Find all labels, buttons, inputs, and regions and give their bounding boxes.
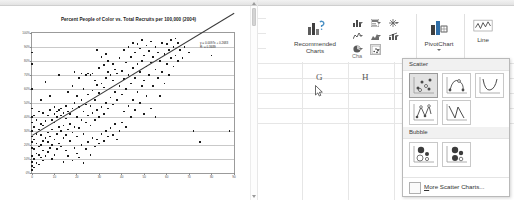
scatter-point — [74, 71, 76, 73]
scatter-point — [148, 50, 150, 52]
waterfall-chart-button[interactable] — [388, 18, 399, 29]
chevron-down-icon[interactable] — [377, 35, 381, 37]
x-axis-tickmark — [189, 173, 190, 175]
scatter-point — [67, 129, 69, 131]
scatter-point — [177, 60, 179, 62]
mouse-pointer-icon — [315, 85, 323, 97]
scroll-down-arrow-icon[interactable] — [252, 195, 256, 198]
pivotchart-button[interactable]: PivotChart — [418, 18, 460, 47]
scatter-point — [137, 63, 139, 65]
scatter-point — [31, 108, 33, 110]
scatter-point — [54, 106, 56, 108]
gridline — [32, 61, 234, 62]
line-chart-button[interactable] — [352, 31, 363, 42]
chevron-down-icon[interactable] — [359, 22, 363, 24]
chevron-down-icon[interactable] — [376, 49, 380, 51]
scatter-point — [125, 62, 127, 64]
scatter-chart-gallery-dropdown[interactable]: Scatter — [402, 58, 510, 197]
scatter-point — [96, 84, 98, 86]
scatter-point — [60, 146, 62, 148]
chevron-down-icon[interactable] — [359, 35, 363, 37]
scatter-point — [94, 99, 96, 101]
column-header-g[interactable]: G — [316, 72, 323, 82]
scatter-point — [101, 133, 103, 135]
scatter-point — [81, 144, 83, 146]
x-axis-tickmark — [211, 173, 212, 175]
scatter-point — [119, 57, 121, 59]
x-axis-tickmark — [76, 173, 77, 175]
more-scatter-charts-item[interactable]: More Scatter Charts... — [403, 177, 509, 196]
scatter-point — [65, 150, 67, 152]
scatter-smooth-lines-markers-thumb[interactable] — [442, 73, 471, 98]
scatter-point — [78, 157, 80, 159]
scatter-point — [78, 77, 80, 79]
scatter-point — [105, 102, 107, 104]
x-axis-tick-label: 60 — [165, 175, 168, 179]
chevron-down-icon[interactable] — [395, 22, 399, 24]
chevron-down-icon[interactable] — [437, 49, 441, 51]
r-squared-text: R² = 0.3689 — [200, 45, 228, 49]
scatter-point — [33, 167, 35, 169]
scroll-up-arrow-icon[interactable] — [252, 2, 256, 5]
more-scatter-charts-label: More Scatter Charts... — [424, 183, 485, 190]
more-label-rest: ore Scatter Charts... — [429, 183, 484, 190]
scatter-point — [47, 151, 49, 153]
scatter-point — [101, 83, 103, 85]
scatter-point — [107, 71, 109, 73]
scatter-point — [65, 134, 67, 136]
scatter-point — [60, 108, 62, 110]
scatter-point — [141, 60, 143, 62]
scatter-point — [143, 55, 145, 57]
scatter-chart-button[interactable] — [370, 44, 381, 55]
scatter-point — [141, 39, 143, 41]
scatter-point — [56, 133, 58, 135]
chevron-down-icon[interactable] — [395, 35, 399, 37]
chevron-down-icon[interactable] — [377, 22, 381, 24]
gridline — [32, 75, 234, 76]
scatter-point — [119, 85, 121, 87]
sparkline-line-button[interactable]: Line — [466, 18, 500, 43]
scatter-point — [78, 127, 80, 129]
hierarchy-chart-button[interactable] — [370, 18, 381, 29]
scatter-point — [33, 148, 35, 150]
scatter-point — [65, 105, 67, 107]
recommended-charts-button[interactable]: Recommended Charts — [286, 18, 344, 54]
statistic-chart-button[interactable] — [388, 31, 399, 42]
scatter-straight-lines-thumb[interactable] — [442, 100, 471, 125]
scatter-point — [130, 56, 132, 58]
x-axis-tickmark — [166, 173, 167, 175]
scatter-point — [83, 111, 85, 113]
scatter-point — [42, 150, 44, 152]
document-scrollbar[interactable] — [250, 6, 257, 200]
scatter-point — [51, 158, 53, 160]
y-axis-tickmark — [30, 145, 32, 146]
bubble-thumb[interactable] — [409, 142, 438, 167]
scatter-point — [139, 102, 141, 104]
scatter-point — [81, 119, 83, 121]
scatter-point — [125, 126, 127, 128]
x-axis-tick-label: 20 — [75, 175, 78, 179]
chevron-down-icon[interactable] — [359, 48, 363, 50]
scatter-point — [107, 108, 109, 110]
scatter-markers-only-thumb[interactable] — [409, 73, 438, 98]
scatter-point — [31, 161, 33, 163]
scatter-point — [51, 129, 53, 131]
pivotchart-label: PivotChart — [418, 40, 460, 47]
recommended-charts-label-1: Recommended — [286, 40, 344, 47]
scrollbar-thumb[interactable] — [252, 8, 256, 26]
bubble-3d-thumb[interactable] — [442, 142, 471, 167]
area-chart-button[interactable] — [370, 31, 381, 42]
scatter-point — [159, 95, 161, 97]
scatter-straight-lines-markers-thumb[interactable] — [409, 100, 438, 125]
gridline — [32, 89, 234, 90]
scatter-point — [155, 46, 157, 48]
x-axis-tickmark — [144, 173, 145, 175]
scatter-point — [74, 102, 76, 104]
scatter-smooth-lines-thumb[interactable] — [475, 73, 504, 98]
column-header-h[interactable]: H — [362, 72, 369, 82]
gallery-section-header-scatter: Scatter — [403, 59, 509, 71]
column-chart-button[interactable] — [352, 18, 363, 29]
scatter-point — [161, 71, 163, 73]
scatter-point — [112, 63, 114, 65]
scatter-point — [31, 130, 33, 132]
